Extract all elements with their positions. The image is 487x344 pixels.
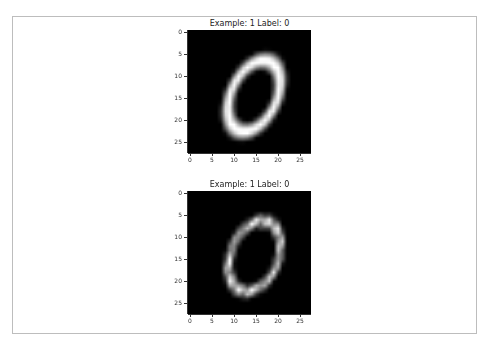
y-tick [184,98,187,99]
y-tick-label: 0 [172,28,182,35]
y-tick [184,193,187,194]
y-tick-label: 0 [172,189,182,196]
x-axis [188,314,311,315]
y-tick [184,259,187,260]
x-tick-label: 5 [205,156,219,163]
x-tick-label: 20 [271,156,285,163]
subplot-title: Example: 1 Label: 0 [188,180,311,189]
y-tick-label: 5 [172,50,182,57]
y-tick-label: 15 [172,255,182,262]
y-tick-label: 25 [172,138,182,145]
digit-image [188,191,311,314]
y-tick-label: 25 [172,299,182,306]
y-axis [187,30,188,153]
y-tick [184,54,187,55]
x-tick-label: 10 [227,317,241,324]
y-tick [184,32,187,33]
y-tick [184,281,187,282]
y-tick-label: 15 [172,94,182,101]
y-tick [184,303,187,304]
y-tick-label: 20 [172,116,182,123]
y-tick [184,215,187,216]
x-tick-label: 25 [293,317,307,324]
x-tick-label: 0 [183,156,197,163]
y-tick-label: 20 [172,277,182,284]
y-tick [184,120,187,121]
y-axis [187,191,188,314]
x-tick-label: 5 [205,317,219,324]
y-tick [184,76,187,77]
x-tick-label: 15 [249,156,263,163]
y-tick-label: 10 [172,72,182,79]
y-tick-label: 5 [172,211,182,218]
x-tick-label: 20 [271,317,285,324]
y-tick [184,142,187,143]
x-tick-label: 15 [249,317,263,324]
x-tick-label: 10 [227,156,241,163]
subplot-title: Example: 1 Label: 0 [188,19,311,28]
x-axis [188,153,311,154]
x-tick-label: 0 [183,317,197,324]
y-tick [184,237,187,238]
x-tick-label: 25 [293,156,307,163]
digit-image [188,30,311,153]
y-tick-label: 10 [172,233,182,240]
